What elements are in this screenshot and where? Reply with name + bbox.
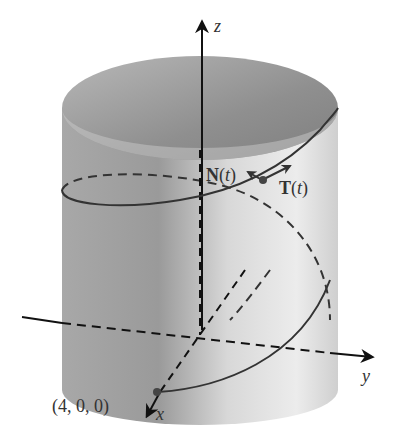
- curve-point: [259, 176, 267, 184]
- helix-diagram: z y x N(t) T(t) (4, 0, 0): [0, 0, 395, 445]
- x-axis-label: x: [155, 404, 164, 424]
- z-axis-label: z: [213, 16, 221, 36]
- normal-label: N(t): [206, 165, 236, 186]
- y-axis-label: y: [360, 366, 370, 386]
- start-point: [153, 388, 161, 396]
- point-label: (4, 0, 0): [52, 396, 109, 417]
- tangent-label: T(t): [279, 178, 308, 199]
- normal-label-main: N: [206, 165, 219, 185]
- tangent-label-main: T: [279, 178, 291, 198]
